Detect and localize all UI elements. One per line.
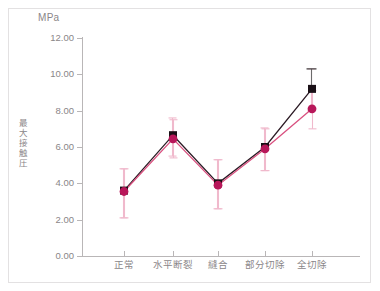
marker-circle [261, 144, 270, 153]
marker-square [308, 85, 316, 93]
chart-figure: MPa 最大接触圧 0.002.004.006.008.0010.0012.00… [0, 0, 380, 291]
errorbars-group [120, 69, 317, 218]
marker-circle [214, 181, 223, 190]
plot-area: MPa 最大接触圧 0.002.004.006.008.0010.0012.00… [0, 0, 380, 291]
marker-circle [120, 187, 129, 196]
marker-circle [169, 134, 178, 143]
data-layer [0, 0, 380, 291]
marker-circle [308, 104, 317, 113]
